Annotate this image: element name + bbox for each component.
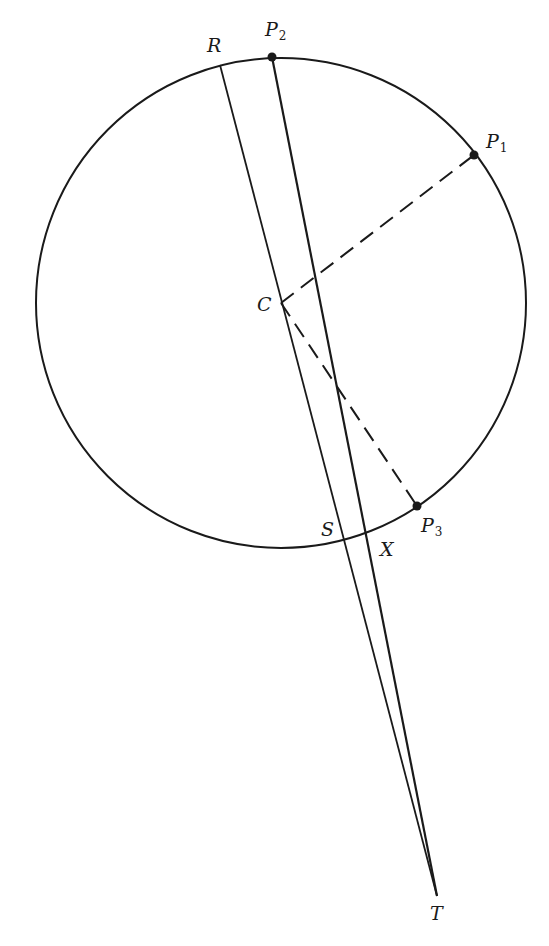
dashed-radius-c-p1 — [281, 155, 474, 303]
point-p3-dot — [413, 502, 422, 511]
point-p2-dot — [268, 53, 277, 62]
label-s: S — [321, 520, 334, 539]
label-p2: P2 — [265, 20, 286, 42]
dashed-radius-c-p3 — [281, 303, 417, 506]
point-p1-dot — [470, 151, 479, 160]
label-p1: P1 — [486, 132, 507, 154]
label-c: C — [257, 295, 272, 314]
line-r-t — [220, 65, 437, 896]
label-r: R — [207, 36, 221, 55]
label-p3: P3 — [421, 516, 442, 538]
line-p2-t — [272, 57, 437, 896]
geometry-figure — [0, 0, 549, 946]
label-x: X — [380, 540, 394, 559]
label-t: T — [430, 904, 443, 923]
